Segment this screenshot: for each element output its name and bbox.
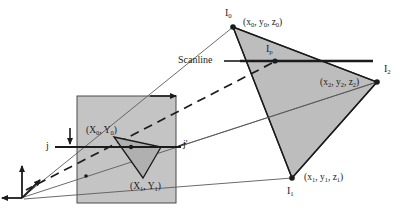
vertex-dot-i1 (289, 175, 295, 181)
label-screen-v1: (X1, Y1) (130, 182, 161, 192)
label-j: j (46, 141, 49, 151)
label-i2-subscript: 2 (387, 68, 390, 75)
label-i1-coords: (x1, y1, z1) (304, 173, 343, 183)
label-screen-v0: (X0, Y0) (86, 126, 117, 136)
label-i0-coords: (x0, y0, z0) (243, 18, 282, 28)
label-ip-subscript: p (269, 48, 272, 55)
label-i0-subscript: 0 (228, 12, 231, 19)
label-i1: I1 (287, 186, 294, 197)
label-i0: I0 (225, 8, 232, 19)
figure-canvas (0, 0, 406, 213)
axis-diagonal-arrow (22, 180, 40, 198)
label-i2: I2 (384, 64, 391, 75)
vertex-dot-i2 (374, 79, 380, 85)
projected-vertex-dot (84, 174, 88, 178)
ip-point-dot (272, 58, 277, 63)
scanline-interpolation-figure: I0 (x0, y0, z0) Scanline Ip I2 (x2, y2, … (0, 0, 406, 213)
world-triangle-shape (233, 27, 377, 178)
vertex-dot-i0 (230, 24, 236, 30)
label-scanline: Scanline (178, 55, 212, 65)
label-i1-subscript: 1 (290, 190, 293, 197)
label-j-prime: j' (183, 139, 188, 149)
label-i2-coords: (x2, y2, z2) (320, 78, 359, 88)
screen-intersection-dot (129, 145, 133, 149)
label-ip: Ip (266, 44, 273, 55)
